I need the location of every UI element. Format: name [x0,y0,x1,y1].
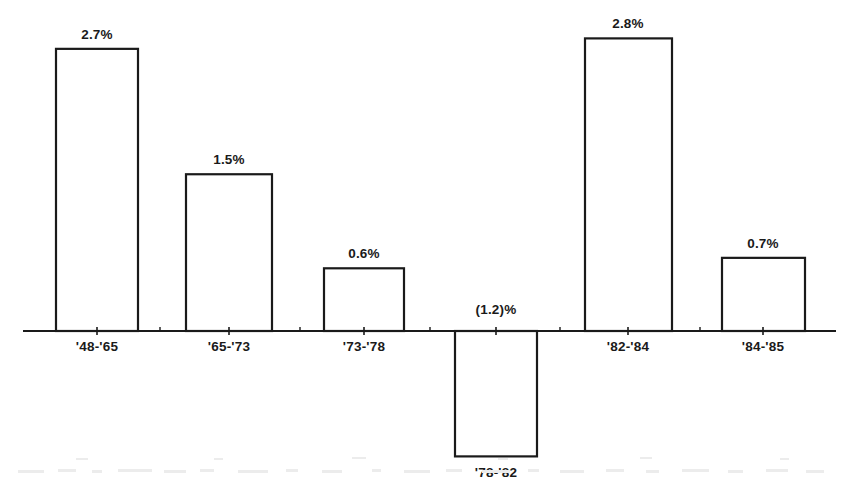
value-label-3: (1.2)% [476,303,517,317]
category-label-3: '78-'82 [475,466,517,480]
chart-plot-area [0,0,844,486]
bar-73--78[interactable] [324,268,404,331]
bars-group [56,38,805,456]
bar-84--85[interactable] [722,258,805,331]
bar-78--82[interactable] [455,331,537,456]
value-label-4: 2.8% [612,17,644,31]
category-label-0: '48-'65 [76,340,118,354]
bar-48--65[interactable] [56,49,138,331]
value-label-0: 2.7% [81,28,113,42]
bar-65--73[interactable] [186,174,272,331]
value-label-2: 0.6% [348,247,380,261]
category-label-5: '84-'85 [742,340,784,354]
bar-chart: 2.7%1.5%0.6%(1.2)%2.8%0.7% '48-'65'65-'7… [0,0,844,486]
bar-82--84[interactable] [585,38,672,331]
category-label-4: '82-'84 [607,340,649,354]
category-label-1: '65-'73 [208,340,250,354]
value-label-1: 1.5% [213,153,245,167]
value-label-5: 0.7% [747,237,779,251]
category-label-2: '73-'78 [343,340,385,354]
